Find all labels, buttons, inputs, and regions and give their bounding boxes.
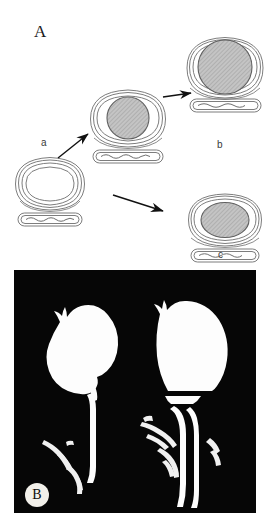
figure-root: A a <box>0 0 269 530</box>
panel-a-letter: A <box>34 22 47 42</box>
panel-b-letter: B <box>32 488 41 502</box>
panel-b-photograph: B <box>14 270 256 513</box>
panel-a: A a <box>0 0 269 270</box>
schematic-stage-intermediate <box>88 88 168 164</box>
schematic-label-c: c <box>218 249 223 260</box>
schematic-stage-c <box>186 192 264 264</box>
schematic-stage-b <box>186 36 266 114</box>
panel-b-letter-badge: B <box>25 483 49 507</box>
panel-b-image <box>14 270 256 513</box>
schematic-label-a: a <box>41 137 47 148</box>
arrow-a-to-c <box>113 195 163 211</box>
schematic-label-b: b <box>217 139 223 150</box>
schematic-stage-a <box>12 155 88 227</box>
